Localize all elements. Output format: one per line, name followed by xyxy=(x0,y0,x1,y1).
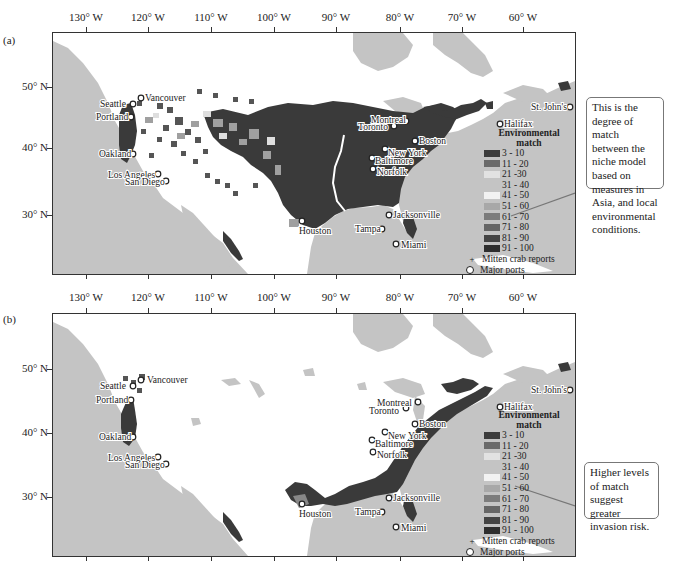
port-label: New York xyxy=(388,148,427,158)
legend-label: 31 - 40 xyxy=(502,462,529,473)
legend-label: 21 -30 xyxy=(502,169,527,180)
legend-row: 21 -30 xyxy=(484,451,574,462)
longitude-label: 60° W xyxy=(509,291,537,303)
legend-label: Mitten crab reports xyxy=(482,254,555,265)
legend-row: 51 - 60 xyxy=(484,483,574,494)
legend-label: 21 -30 xyxy=(502,451,527,462)
legend-row: 81 - 90 xyxy=(484,515,574,526)
longitude-label: 70° W xyxy=(448,291,476,303)
port-label: Seattle xyxy=(100,381,126,391)
legend-swatch xyxy=(484,527,500,534)
legend-row: Major ports xyxy=(462,265,574,276)
legend-row: 21 -30 xyxy=(484,169,574,180)
port-label: Houston xyxy=(299,509,331,519)
legend-row: +Mitten crab reports xyxy=(464,254,574,265)
circle-icon xyxy=(466,266,474,274)
legend-row: 3 - 10 xyxy=(484,148,574,159)
port-label: Montreal xyxy=(377,398,412,408)
legend-swatch xyxy=(484,224,500,231)
legend-swatch xyxy=(484,171,500,178)
longitude-label: 70° W xyxy=(448,11,476,23)
longitude-label: 130° W xyxy=(69,11,103,23)
port-label: Norfolk xyxy=(377,167,407,177)
legend-label: 3 - 10 xyxy=(502,148,524,159)
port-label: Montreal xyxy=(371,115,406,125)
port-label: Vancouver xyxy=(145,93,186,103)
longitude-label: 130° W xyxy=(69,291,103,303)
legend-label: 3 - 10 xyxy=(502,430,524,441)
port-label: Portland xyxy=(96,112,128,122)
legend-swatch xyxy=(484,453,500,460)
port-label: St. John's xyxy=(531,102,567,112)
legend-swatch xyxy=(484,474,500,481)
legend-row: 51 - 60 xyxy=(484,201,574,212)
longitude-label: 120° W xyxy=(131,291,165,303)
port-label: Jacksonville xyxy=(393,493,440,503)
legend-label: Major ports xyxy=(480,547,525,558)
port-label: Boston xyxy=(419,136,446,146)
longitude-label: 90° W xyxy=(322,11,350,23)
latitude-label: 40° N xyxy=(4,141,48,153)
callout-b: Higher levels of match suggest greater i… xyxy=(584,462,659,519)
panel-label: (a) xyxy=(3,34,15,46)
port-label: Oakland xyxy=(99,432,131,442)
legend-title: Environmental xyxy=(484,410,574,420)
legend-row: +Mitten crab reports xyxy=(464,536,574,547)
legend-swatch xyxy=(484,495,500,502)
longitude-label: 60° W xyxy=(509,11,537,23)
legend-swatch xyxy=(484,213,500,220)
port-label: New York xyxy=(388,431,427,441)
latitude-label: 50° N xyxy=(4,362,48,374)
legend-label: 61 - 70 xyxy=(502,212,529,223)
legend-label: 11 - 20 xyxy=(502,159,529,170)
legend-title: match xyxy=(484,138,574,148)
legend-row: 61 - 70 xyxy=(484,494,574,505)
longitude-label: 100° W xyxy=(257,11,291,23)
latitude-label: 40° N xyxy=(4,426,48,438)
legend-row: 71 - 80 xyxy=(484,504,574,515)
legend-swatch xyxy=(484,464,500,471)
port-label: Oakland xyxy=(99,149,131,159)
plus-icon: + xyxy=(464,254,480,265)
legend-title: match xyxy=(484,420,574,430)
legend-row: 31 - 40 xyxy=(484,180,574,191)
port-label: St. John's xyxy=(531,385,567,395)
plus-icon: + xyxy=(464,536,480,547)
longitude-label: 120° W xyxy=(131,11,165,23)
port-label: Norfolk xyxy=(377,450,407,460)
longitude-label: 90° W xyxy=(322,291,350,303)
circle-icon xyxy=(466,548,474,556)
latitude-label: 30° N xyxy=(4,208,48,220)
longitude-label: 80° W xyxy=(386,11,414,23)
legend-a: Environmental match 3 - 10 11 - 20 21 -3… xyxy=(484,128,574,275)
latitude-label: 50° N xyxy=(4,80,48,92)
port-label: Tampa xyxy=(355,507,381,517)
longitude-label: 110° W xyxy=(194,11,227,23)
legend-title: Environmental xyxy=(484,128,574,138)
legend-row: 41 - 50 xyxy=(484,472,574,483)
longitude-label: 80° W xyxy=(386,291,414,303)
legend-label: 31 - 40 xyxy=(502,180,529,191)
legend-swatch xyxy=(484,245,500,252)
legend-row: 61 - 70 xyxy=(484,212,574,223)
legend-row: 31 - 40 xyxy=(484,462,574,473)
legend-label: 91 - 100 xyxy=(502,525,534,536)
legend-swatch xyxy=(484,442,500,449)
legend-swatch xyxy=(484,150,500,157)
port-label: Boston xyxy=(419,419,446,429)
legend-row: 81 - 90 xyxy=(484,233,574,244)
legend-row: Major ports xyxy=(462,547,574,558)
legend-swatch xyxy=(484,517,500,524)
port-label: Miami xyxy=(401,523,427,533)
port-label: Vancouver xyxy=(147,375,188,385)
longitude-label: 100° W xyxy=(257,291,291,303)
legend-row: 11 - 20 xyxy=(484,441,574,452)
legend-row: 91 - 100 xyxy=(484,525,574,536)
longitude-label: 110° W xyxy=(194,291,227,303)
port-label: San Diego xyxy=(125,177,165,187)
legend-label: 51 - 60 xyxy=(502,201,529,212)
legend-row: 91 - 100 xyxy=(484,243,574,254)
port-label: Jacksonville xyxy=(393,210,440,220)
legend-row: 41 - 50 xyxy=(484,190,574,201)
legend-label: 11 - 20 xyxy=(502,441,529,452)
